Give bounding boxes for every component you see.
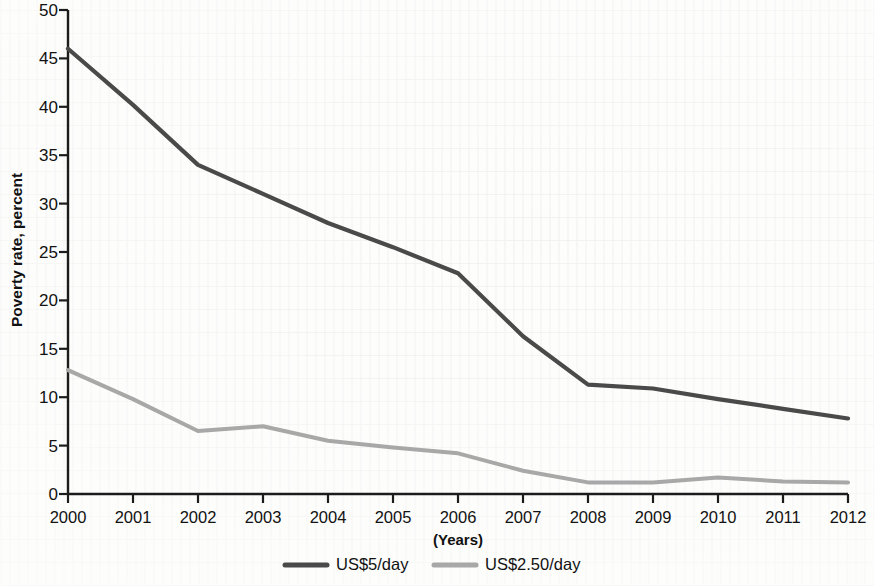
y-tick-label: 20	[39, 291, 58, 310]
chart-canvas: Poverty rate, percent 051015202530354045…	[0, 0, 874, 586]
x-tick-label: 2004	[310, 508, 347, 526]
x-axis-tick-labels: 2000200120022003200420052006200720082009…	[50, 508, 867, 526]
chart-legend: US$5/dayUS$2.50/day	[285, 555, 581, 573]
y-tick-label: 30	[39, 195, 58, 214]
y-axis-tick-marks	[59, 10, 68, 494]
x-tick-label: 2012	[830, 508, 867, 526]
x-tick-label: 2005	[375, 508, 412, 526]
x-tick-label: 2002	[180, 508, 217, 526]
x-tick-label: 2008	[570, 508, 607, 526]
y-tick-label: 45	[39, 49, 58, 68]
x-tick-label: 2006	[440, 508, 477, 526]
legend-label: US$2.50/day	[485, 555, 581, 573]
y-tick-label: 15	[39, 340, 58, 359]
series-line-us-5-day	[68, 49, 848, 419]
x-tick-label: 2000	[50, 508, 87, 526]
y-tick-label: 50	[39, 1, 58, 20]
y-axis-title: Poverty rate, percent	[8, 173, 25, 327]
x-tick-label: 2010	[700, 508, 737, 526]
x-tick-label: 2003	[245, 508, 282, 526]
y-tick-label: 5	[49, 437, 58, 456]
y-axis-tick-labels: 05101520253035404550	[39, 1, 58, 504]
y-tick-label: 0	[49, 485, 58, 504]
y-tick-label: 35	[39, 146, 58, 165]
y-axis-title-text: Poverty rate, percent	[8, 173, 25, 327]
legend-label: US$5/day	[336, 555, 409, 573]
series-line-us-2-50-day	[68, 370, 848, 482]
x-axis-tick-marks	[68, 494, 848, 503]
x-tick-label: 2009	[635, 508, 672, 526]
x-axis-title-text: (Years)	[433, 531, 483, 548]
y-tick-label: 40	[39, 98, 58, 117]
poverty-rate-line-chart: Poverty rate, percent 051015202530354045…	[0, 0, 874, 586]
data-series-group	[68, 49, 848, 483]
x-tick-label: 2001	[115, 508, 152, 526]
x-tick-label: 2007	[505, 508, 542, 526]
y-tick-label: 25	[39, 243, 58, 262]
x-tick-label: 2011	[765, 508, 800, 526]
y-tick-label: 10	[39, 388, 58, 407]
